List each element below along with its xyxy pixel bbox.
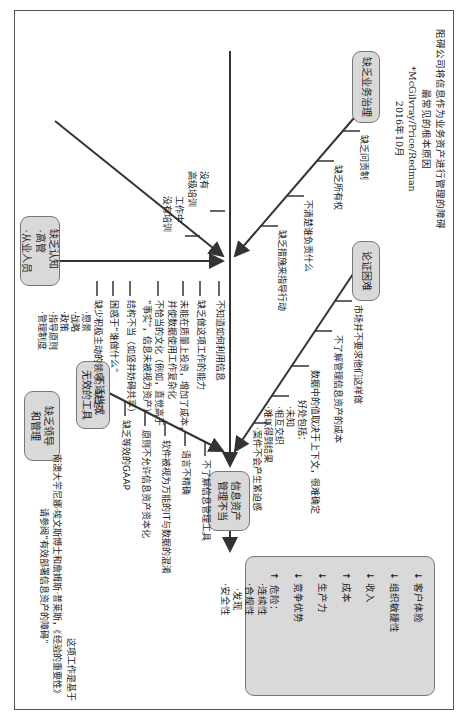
arrow-down-icon: ↓ bbox=[363, 569, 376, 583]
cause-item: 数据中的值取决于上下文，很难确定 bbox=[308, 370, 320, 514]
arrow-down-icon: ↓ bbox=[411, 569, 424, 583]
diagram-frame: 阻碍公司将信息作为业务资产进行管理的障碍 最常见的根本原因 *McGilvray… bbox=[14, 10, 454, 710]
arrow-down-icon: ↓ bbox=[291, 569, 304, 583]
cause-item: 困惑于“谁做什么” bbox=[107, 300, 119, 372]
arrow-up-icon: ↑ bbox=[267, 569, 280, 583]
cause-item: ·案件不会产生紧迫感 bbox=[250, 427, 262, 511]
head-box: 信息资产 管理不当 bbox=[208, 471, 250, 531]
effect-item: ↓收入 bbox=[352, 569, 376, 633]
arrow-up-icon: ↑ bbox=[339, 569, 352, 583]
cause-item: 缺乏所有权 bbox=[331, 165, 343, 210]
title-line-4: 2016年10月 bbox=[392, 19, 406, 239]
cause-item: 缺乏做这项工作的能力 bbox=[194, 300, 206, 390]
effect-item: ↓组织敏捷性 bbox=[376, 569, 400, 633]
cause-item: 原则不允许信息资产资本化 bbox=[139, 430, 151, 538]
cause-item: ·政策 bbox=[57, 311, 69, 332]
arrow-down-icon: ↓ bbox=[315, 569, 328, 583]
cause-item: 未能在质量上投资，增加了成本， 并使数据使用工作复杂化 bbox=[166, 300, 189, 435]
cause-item: 没有 高级培训 bbox=[186, 171, 209, 207]
cause-item: ·战略 bbox=[68, 311, 80, 332]
cause-item: 缺少积极主动的领导。缺乏： bbox=[91, 300, 103, 417]
title-line-2: 最常见的根本原因 bbox=[419, 19, 433, 239]
cause-item: 不清楚谁负责什么 bbox=[301, 200, 313, 272]
cause-item: ·相互交织 bbox=[272, 406, 284, 445]
cause-item: 软件被视为万能的IT与数据的混淆 bbox=[159, 440, 171, 574]
cause-item: 不了解信息管理工具 bbox=[199, 460, 211, 541]
effect-item: ↓客户体验 bbox=[400, 569, 424, 633]
cause-item: 缺乏问责制 bbox=[357, 135, 369, 180]
cause-item: 不了解管理信息资产的成本 bbox=[331, 335, 343, 443]
effect-item: ↑ 危险： ·连续性 ·合规性 ·发现 ·安全性 bbox=[218, 569, 280, 633]
cause-item: ·未知 bbox=[283, 406, 295, 427]
cause-item: 结构不当（如竖井妨碍共享） bbox=[124, 300, 136, 417]
cause-item: ·愿景 bbox=[79, 311, 91, 332]
cause-item: 语言不精确 bbox=[179, 450, 191, 495]
title-line-1: 阻碍公司将信息作为业务资产进行管理的障碍 bbox=[433, 19, 447, 239]
fishbone-canvas: 阻碍公司将信息作为业务资产进行管理的障碍 最常见的根本原因 *McGilvray… bbox=[15, 11, 455, 711]
cause-item: 不知道如何利用信息 bbox=[213, 300, 225, 381]
cause-item: ·指导原则 bbox=[46, 311, 58, 350]
effects-list: ↓客户体验 ↓组织敏捷性 ↓收入 ↑成本 ↓生产力 ↓竞争优势 ↑ 危险： ·连… bbox=[218, 569, 424, 633]
title-line-3: *McGilvray/Price/Redman bbox=[406, 19, 420, 239]
cause-item: 好处包括： bbox=[295, 400, 307, 445]
arrow-down-icon: ↓ bbox=[387, 569, 400, 583]
cause-item: 缺乏等效的GAAP bbox=[119, 420, 131, 490]
cause-box-justification: 论证困难 bbox=[352, 241, 380, 301]
footnote: 这项工作是基于 南澳大学尼娜·埃文斯博士和詹姆斯·普莱斯，《经验的重要性》 请参… bbox=[37, 451, 78, 701]
diagram-title: 阻碍公司将信息作为业务资产进行管理的障碍 最常见的根本原因 *McGilvray… bbox=[392, 19, 447, 239]
cause-box-awareness: 缺乏认知 ·高管 ·从业人员 bbox=[20, 216, 60, 286]
cause-item: 工作中 没有培训 bbox=[161, 196, 184, 232]
cause-item: 市场并不要求他们这样做 bbox=[351, 305, 363, 404]
effect-item: ↑成本 bbox=[328, 569, 352, 633]
cause-box-governance: 缺乏业务治理 bbox=[352, 51, 380, 123]
effect-item: ↓生产力 bbox=[304, 569, 328, 633]
cause-item: 不恰当的文化（例如，直觉高于 “事实”，信息未被视为资产） bbox=[141, 300, 164, 426]
cause-item: ·管理制度 bbox=[35, 311, 47, 350]
cause-item: ·难以得到结果 bbox=[261, 406, 273, 463]
effect-item: ↓竞争优势 bbox=[280, 569, 304, 633]
cause-item: 缺乏措施来指导行动 bbox=[275, 230, 287, 311]
effects-box: ↓客户体验 ↓组织敏捷性 ↓收入 ↑成本 ↓生产力 ↓竞争优势 ↑ 危险： ·连… bbox=[245, 556, 435, 696]
